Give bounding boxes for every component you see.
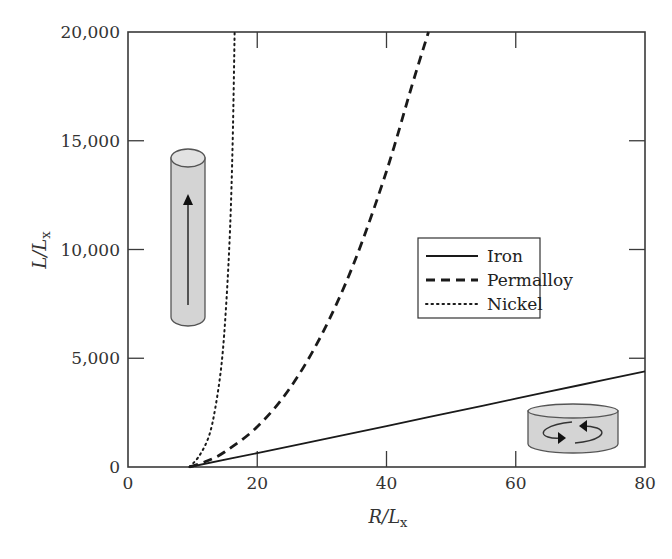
- y-tick-label: 15,000: [61, 131, 120, 151]
- y-tick-label: 10,000: [61, 240, 120, 260]
- legend-label-iron: Iron: [487, 246, 523, 266]
- y-tick-label: 20,000: [61, 22, 120, 42]
- legend-label-permalloy: Permalloy: [487, 270, 573, 290]
- x-tick-label: 60: [505, 473, 527, 493]
- x-tick-label: 40: [376, 473, 398, 493]
- chart: 020406080 05,00010,00015,00020,000 R/Lx …: [0, 0, 672, 559]
- y-tick-label: 0: [109, 457, 120, 477]
- series-group: [189, 32, 645, 467]
- x-tick-label: 80: [634, 473, 656, 493]
- legend-label-nickel: Nickel: [487, 294, 543, 314]
- x-tick-label: 20: [246, 473, 268, 493]
- legend: IronPermalloyNickel: [418, 238, 573, 318]
- flat-disk-illustration: [528, 404, 618, 453]
- x-tick-label: 0: [123, 473, 134, 493]
- x-axis-label: R/Lx: [368, 506, 409, 530]
- y-tick-label: 5,000: [71, 348, 120, 368]
- tall-cylinder-illustration: [171, 149, 205, 326]
- y-axis-label: L/Lx: [29, 231, 53, 270]
- series-line-permalloy: [189, 32, 428, 467]
